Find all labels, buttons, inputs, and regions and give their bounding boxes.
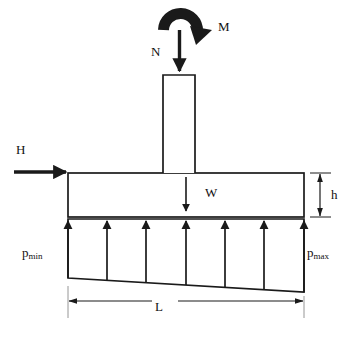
pressure-min-symbol: p: [22, 245, 29, 260]
moment-label: M: [218, 20, 230, 33]
axial-load-label: N: [151, 45, 160, 58]
footing-thickness-label: h: [331, 188, 338, 201]
column-stem: [163, 75, 195, 173]
pressure-max-label: pmax: [307, 246, 329, 259]
pressure-min-subscript: min: [29, 251, 43, 261]
diagram-canvas: [0, 0, 351, 339]
self-weight-label: W: [205, 186, 217, 199]
footing-pressure-diagram: N M H W h pmin pmax L: [0, 0, 351, 339]
pressure-max-symbol: p: [307, 245, 314, 260]
horizontal-force-label: H: [16, 143, 25, 156]
footing-length-label: L: [155, 300, 163, 313]
pressure-min-label: pmin: [22, 246, 43, 259]
pressure-max-subscript: max: [314, 251, 330, 261]
moment-arrowhead: [190, 26, 212, 45]
